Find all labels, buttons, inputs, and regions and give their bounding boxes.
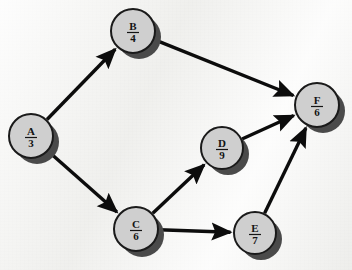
directed-graph: A3B4C6D9E7F6 <box>0 0 352 270</box>
edges-layer <box>47 40 306 233</box>
node-f[interactable]: F6 <box>295 83 345 133</box>
node-value: 3 <box>28 137 34 149</box>
node-d[interactable]: D9 <box>201 127 249 175</box>
edge-c-to-e <box>159 230 231 232</box>
node-value: 9 <box>219 149 225 161</box>
node-letter: C <box>132 218 140 230</box>
node-a[interactable]: A3 <box>9 114 59 164</box>
node-letter: D <box>218 137 226 149</box>
edge-a-to-b <box>47 49 115 119</box>
node-value: 4 <box>130 32 136 44</box>
node-c[interactable]: C6 <box>114 207 164 257</box>
edge-e-to-f <box>265 128 306 213</box>
diagram-canvas: A3B4C6D9E7F6 <box>0 0 352 270</box>
edge-c-to-d <box>153 165 204 213</box>
nodes-layer: A3B4C6D9E7F6 <box>9 9 345 260</box>
node-b[interactable]: B4 <box>111 9 161 59</box>
edge-d-to-f <box>242 116 294 139</box>
node-letter: F <box>314 94 321 106</box>
node-e[interactable]: E7 <box>234 212 282 260</box>
edge-a-to-c <box>48 151 117 212</box>
node-letter: A <box>27 125 35 137</box>
node-letter: B <box>129 20 137 32</box>
node-value: 6 <box>133 230 139 242</box>
node-value: 7 <box>252 234 258 246</box>
node-letter: E <box>251 222 258 234</box>
node-value: 6 <box>314 106 320 118</box>
edge-b-to-f <box>154 40 293 96</box>
